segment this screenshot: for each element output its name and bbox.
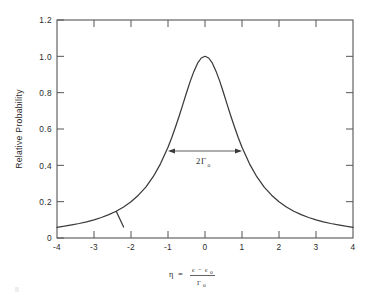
lorentzian-chart: 0 0.2 0.4 0.6 0.8 1.0 1.2 -4 -3 -2 -1 0 …	[0, 0, 372, 300]
x-tick-label: 3	[313, 242, 318, 252]
y-tick-label: 1.0	[39, 52, 52, 62]
y-tick-label: 1.2	[39, 15, 52, 25]
fwhm-label-gamma: Γ	[201, 156, 206, 166]
y-tick-label: 0.4	[39, 161, 52, 171]
x-axis-title: η = ϵ − ϵ o Γ o	[169, 266, 215, 288]
x-tick-label: 4	[350, 242, 355, 252]
x-axis-title-numerator-eps0: ϵ	[205, 266, 208, 273]
x-tick-labels: -4 -3 -2 -1 0 1 2 3 4	[53, 242, 356, 252]
x-tick-label: 2	[276, 242, 281, 252]
x-axis-title-numerator-eps: ϵ	[192, 266, 195, 273]
plot-frame	[57, 20, 353, 238]
x-ticks-top	[94, 20, 316, 27]
y-tick-label: 0.8	[39, 88, 52, 98]
x-tick-label: 1	[239, 242, 244, 252]
fwhm-label-sub: o	[208, 162, 211, 168]
x-tick-label: 0	[202, 242, 207, 252]
y-ticks-left	[57, 20, 64, 238]
x-tick-label: -4	[53, 242, 61, 252]
fwhm-arrowhead-left	[168, 148, 175, 153]
fwhm-marker: 2 Γ o	[168, 148, 242, 167]
fwhm-arrowhead-right	[235, 148, 242, 153]
fwhm-label-prefix: 2	[196, 156, 200, 166]
x-ticks-bottom	[94, 231, 316, 238]
x-axis-title-eta: η	[169, 270, 173, 279]
y-tick-label: 0.2	[39, 197, 52, 207]
x-axis-title-equals: =	[178, 270, 183, 279]
x-axis-title-denominator-gamma: Γ	[197, 279, 201, 286]
y-axis-title: Relative Probability	[14, 89, 24, 169]
y-tick-label: 0	[47, 233, 52, 243]
figure-container: 0 0.2 0.4 0.6 0.8 1.0 1.2 -4 -3 -2 -1 0 …	[0, 0, 372, 300]
y-ticks-right	[346, 56, 353, 201]
lorentzian-curve	[57, 56, 353, 227]
x-tick-label: -2	[127, 242, 135, 252]
scan-artifact	[15, 287, 19, 292]
x-axis-title-numerator-sub: o	[210, 269, 213, 275]
x-axis-title-numerator-minus: −	[198, 266, 202, 273]
x-axis-title-denominator-sub: o	[203, 282, 206, 288]
y-tick-labels: 0 0.2 0.4 0.6 0.8 1.0 1.2	[39, 15, 52, 243]
x-tick-label: -1	[164, 242, 172, 252]
x-tick-label: -3	[90, 242, 98, 252]
y-tick-label: 0.6	[39, 124, 52, 134]
